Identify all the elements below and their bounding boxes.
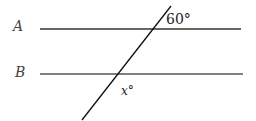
angle-label-top: 60°	[166, 11, 191, 27]
angle-label-x: x°	[121, 84, 134, 98]
label-a: A	[11, 18, 23, 34]
transversal	[82, 6, 171, 120]
label-b: B	[14, 64, 25, 80]
diagram-canvas: A B 60° x°	[0, 0, 256, 121]
